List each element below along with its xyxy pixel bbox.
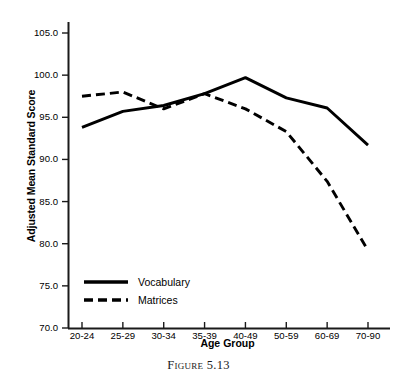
y-axis-tick-label: 70.0 — [16, 323, 58, 333]
y-axis-tick-label: 105.0 — [16, 28, 58, 38]
legend-label-matrices: Matrices — [138, 292, 178, 308]
y-axis-tick-label: 95.0 — [16, 112, 58, 122]
y-axis-tick-label: 75.0 — [16, 281, 58, 291]
legend-swatch-dashed-icon — [84, 298, 128, 302]
y-axis-title: Adjusted Mean Standard Score — [25, 61, 37, 271]
series-line-vocabulary — [82, 78, 368, 145]
plot-area: 70.075.080.085.090.095.0100.0105.0 20-24… — [0, 0, 397, 355]
data-series-group — [82, 78, 368, 251]
y-axis-tick-label: 85.0 — [16, 197, 58, 207]
x-axis-ticks — [82, 322, 368, 328]
y-axis-ticks — [62, 33, 68, 328]
figure-caption: Figure 5.13 — [0, 358, 397, 373]
x-axis-title: Age Group — [60, 337, 395, 349]
y-axis-tick-label: 80.0 — [16, 239, 58, 249]
legend-swatch-solid-icon — [84, 280, 128, 284]
figure-container: 70.075.080.085.090.095.0100.0105.0 20-24… — [0, 0, 397, 383]
y-axis-tick-label: 100.0 — [16, 70, 58, 80]
legend-label-vocabulary: Vocabulary — [138, 274, 190, 290]
line-chart-svg — [0, 0, 397, 355]
series-line-matrices — [82, 92, 368, 250]
y-axis-tick-label: 90.0 — [16, 154, 58, 164]
